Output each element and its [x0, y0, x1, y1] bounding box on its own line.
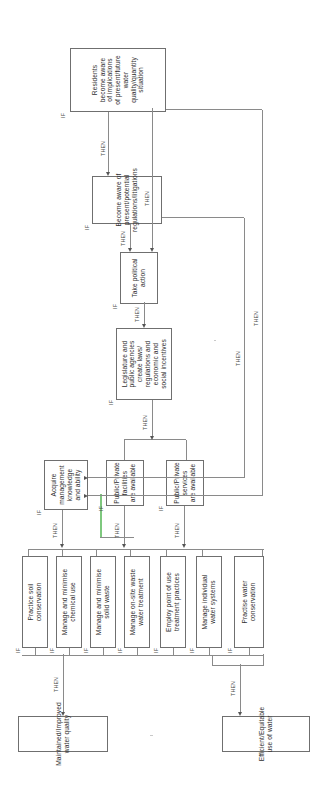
- then-label-political-legislature: THEN: [134, 307, 140, 322]
- practice-text-onsite-waste-water: Manage on-site wastewater treatment: [129, 569, 145, 636]
- long-drop-aware: [162, 217, 244, 218]
- practice-box-point-of-use: Employ point of usetreatment practices: [160, 556, 186, 648]
- rstub-pointuse: [166, 550, 167, 556]
- scan-artefact-1: [150, 735, 153, 736]
- driver-text-residents-aware: Residentsbecome awareof implicationsof p…: [91, 55, 145, 105]
- bus-stub-conservation: [249, 648, 250, 656]
- enabler-text-pp-services: Public/Privateservicesare available: [173, 462, 196, 504]
- then-label-residents-aware: THEN: [100, 141, 106, 156]
- practice-text-point-of-use: Employ point of usetreatment practices: [165, 572, 181, 632]
- then-label-aware-political: THEN: [120, 231, 126, 246]
- then-label-residents-political: THEN: [144, 191, 150, 206]
- rstub-chemical: [62, 550, 63, 556]
- then-arrow-water-quality: [61, 712, 65, 716]
- pp-stub-facilities: [124, 440, 125, 460]
- if-label-political: IF: [112, 304, 118, 309]
- then-arrow-residents-political: [150, 248, 154, 252]
- if-label-soil: IF: [15, 648, 21, 653]
- then-label-legislature-pp: THEN: [142, 415, 148, 430]
- then-label-knowledge: THEN: [52, 523, 58, 538]
- bus-line-pp: [124, 439, 186, 440]
- highlight-line-waste-group: [100, 494, 102, 538]
- then-label-long-aware: THEN: [235, 351, 241, 366]
- then-line-water-quality: [63, 654, 64, 712]
- practice-text-chemical-use: Manage and minimisechemical use: [61, 569, 77, 635]
- bus-stub-individual: [209, 648, 210, 656]
- then-arrow-knowledge: [60, 544, 64, 548]
- then-arrow-aware-political: [128, 248, 132, 252]
- if-label-residents: IF: [60, 113, 66, 118]
- if-label-facilities: IF: [98, 506, 104, 511]
- enabler-text-pp-facilities: Public/Privatefacilitiesare available: [113, 462, 136, 504]
- practice-box-individual-water-systems: Manage individualwater systems: [196, 556, 222, 648]
- then-arrow-residents-aware: [106, 172, 110, 176]
- if-label-solidwaste: IF: [83, 648, 89, 653]
- if-label-services: IF: [158, 506, 164, 511]
- then-line-facilities: [124, 506, 125, 544]
- diagram-canvas: Maintained/Improvedwater quality Efficie…: [0, 0, 326, 796]
- practice-text-water-conservation: Practise waterconservation: [241, 580, 257, 623]
- driver-text-political-action: Take politicalaction: [131, 258, 147, 297]
- rstub-solidwaste: [96, 550, 97, 556]
- if-label-knowledge: IF: [36, 510, 42, 515]
- if-label-become-aware: IF: [84, 225, 90, 230]
- then-line-residents-political: [152, 108, 153, 248]
- long-drop-residents: [166, 109, 262, 110]
- long-arrow-aware-knowledge: [84, 476, 88, 480]
- enabler-box-pp-facilities: Public/Privatefacilitiesare available: [106, 460, 144, 506]
- then-label-facilities: THEN: [114, 523, 120, 538]
- bus-stub-solidwaste: [103, 648, 104, 656]
- if-label-legislature: IF: [108, 400, 114, 405]
- enabler-text-management-knowledge: Acquiremanagementknowledgeand ability: [50, 465, 81, 505]
- long-riser-aware-knowledge: [88, 477, 244, 478]
- rstub-onsite: [130, 550, 131, 556]
- then-line-legislature-pp: [152, 400, 153, 436]
- bus-stub-onsite: [137, 648, 138, 656]
- bus-line-practices-left: [22, 655, 264, 656]
- driver-box-residents-aware: Residentsbecome awareof implicationsof p…: [70, 48, 166, 112]
- enabler-box-pp-services: Public/Privateservicesare available: [166, 460, 204, 506]
- practice-text-solid-waste: Manage and minimisesolid waste: [95, 569, 111, 635]
- scan-artefact-2: [214, 340, 216, 341]
- driver-box-political-action: Take politicalaction: [120, 252, 158, 304]
- long-line-residents-knowledge: [262, 110, 263, 496]
- bus-line-practices-right: [28, 549, 264, 550]
- outcome-box-water-use: Efficient/Equitableuse of water: [222, 716, 310, 752]
- if-label-individual: IF: [189, 648, 195, 653]
- then-arrow-services: [182, 544, 186, 548]
- practice-box-soil-conservation: Practice soilconservation: [22, 556, 48, 648]
- then-line-aware-political: [130, 224, 131, 248]
- then-line-services: [184, 506, 185, 544]
- outcome-text-water-use: Efficient/Equitableuse of water: [258, 707, 274, 762]
- if-label-chemical: IF: [49, 648, 55, 653]
- bus-stub-soil: [35, 648, 36, 656]
- bus-stub-pointuse: [173, 648, 174, 656]
- then-line-political-legislature: [144, 302, 145, 324]
- long-line-aware-knowledge: [244, 218, 245, 478]
- rstub-individual: [202, 550, 203, 556]
- driver-text-legislature: Legislature andpublic agenciescreate law…: [121, 339, 168, 389]
- driver-text-become-aware: Become aware ofpresent/potentialregulati…: [115, 168, 138, 232]
- practice-box-solid-waste: Manage and minimisesolid waste: [90, 556, 116, 648]
- then-line-water-use: [240, 664, 241, 712]
- rstub-conservation: [262, 550, 263, 556]
- then-arrow-water-use: [238, 712, 242, 716]
- then-arrow-political-legislature: [142, 324, 146, 328]
- then-arrow-facilities: [122, 544, 126, 548]
- then-label-water-use: THEN: [230, 681, 236, 696]
- if-label-onsite: IF: [117, 648, 123, 653]
- then-label-long-residents: THEN: [253, 311, 259, 326]
- driver-box-legislature: Legislature andpublic agenciescreate law…: [116, 328, 172, 400]
- practice-box-onsite-waste-water: Manage on-site wastewater treatment: [124, 556, 150, 648]
- branch-stub-individual2: [212, 656, 213, 666]
- practice-text-soil-conservation: Practice soilconservation: [27, 583, 43, 622]
- enabler-box-management-knowledge: Acquiremanagementknowledgeand ability: [44, 460, 88, 510]
- practice-box-chemical-use: Manage and minimisechemical use: [56, 556, 82, 648]
- bus-stub-chemical: [69, 648, 70, 656]
- then-label-services: THEN: [174, 523, 180, 538]
- then-line-knowledge: [62, 510, 63, 544]
- rstub-soil: [28, 550, 29, 556]
- then-line-residents-aware: [108, 112, 109, 172]
- outcome-box-water-quality: Maintained/Improvedwater quality: [18, 716, 108, 752]
- long-riser-residents-knowledge: [88, 495, 262, 496]
